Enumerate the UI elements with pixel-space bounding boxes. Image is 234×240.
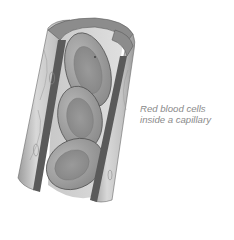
caption-line-1: Red blood cells bbox=[140, 103, 234, 114]
caption-line-2: inside a capillary bbox=[140, 114, 234, 125]
diagram-caption: Red blood cells inside a capillary bbox=[140, 103, 234, 125]
